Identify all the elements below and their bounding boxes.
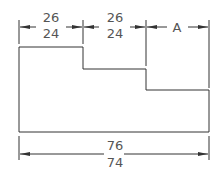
dim-a-label: A <box>173 20 182 35</box>
dim1-upper: 26 <box>43 10 60 25</box>
bottom-dim-upper: 76 <box>107 138 124 153</box>
dim2-upper: 26 <box>107 10 124 25</box>
technical-drawing: 26 24 26 24 A 76 74 <box>0 0 224 180</box>
dim1-lower: 24 <box>43 26 60 41</box>
dim2-lower: 24 <box>107 26 124 41</box>
bottom-dim-lower: 74 <box>107 155 124 170</box>
stepped-profile-outline <box>19 47 209 132</box>
